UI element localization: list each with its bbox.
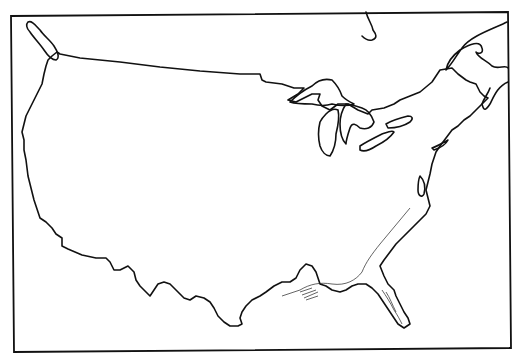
lake-erie (360, 131, 394, 151)
nova-scotia-coast (482, 82, 508, 109)
mississippi-delta-hatch (300, 288, 318, 300)
long-island (432, 140, 448, 150)
us-outline-map (0, 0, 525, 360)
florida-inland-line (382, 290, 402, 324)
chesapeake-bay (418, 176, 425, 196)
gulf-of-st-lawrence-coast (446, 22, 508, 70)
lake-ontario (386, 116, 412, 128)
hudson-bay-coast (362, 12, 376, 40)
map-frame (11, 12, 511, 352)
map-canvas (0, 0, 525, 360)
lake-michigan (319, 109, 339, 156)
